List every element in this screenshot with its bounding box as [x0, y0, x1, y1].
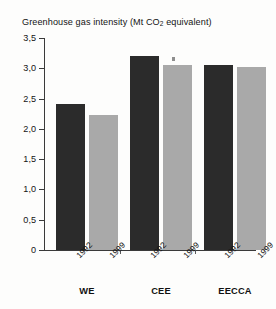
x-axis-group-label-eecca: EECCA — [218, 286, 251, 296]
y-axis-tick-label: 1,0 — [23, 184, 36, 194]
y-axis-tick-label: 0,5 — [23, 215, 36, 225]
x-axis-group-label-we: WE — [79, 286, 94, 296]
scan-artifact-speck — [172, 57, 175, 61]
y-axis-tick-label: 2,5 — [23, 94, 36, 104]
chart-title-main: Greenhouse gas intensity (Mt CO — [22, 17, 160, 27]
bar-we-1999 — [89, 115, 118, 250]
bar-cee-1992 — [130, 56, 159, 250]
bar-eecca-1992 — [204, 65, 233, 250]
chart-title: Greenhouse gas intensity (Mt CO2 equival… — [22, 17, 212, 27]
y-axis-tick-mark — [39, 250, 44, 251]
y-axis-tick-label: 0 — [31, 245, 36, 255]
y-axis-tick-mark — [39, 68, 44, 69]
chart-figure: Greenhouse gas intensity (Mt CO2 equival… — [0, 0, 276, 309]
y-axis-tick-mark — [39, 38, 44, 39]
y-axis-tick-mark — [39, 129, 44, 130]
chart-title-tail: equivalent) — [164, 17, 212, 27]
y-axis-tick-label: 2,0 — [23, 124, 36, 134]
y-axis-tick-mark — [39, 159, 44, 160]
x-axis-group-label-cee: CEE — [151, 286, 171, 296]
y-axis-tick-label: 3,0 — [23, 63, 36, 73]
y-axis-tick-mark — [39, 189, 44, 190]
bar-we-1992 — [56, 104, 85, 250]
y-axis-tick-label: 3,5 — [23, 33, 36, 43]
y-axis-tick-mark — [39, 99, 44, 100]
bar-cee-1999 — [163, 65, 192, 250]
plot-area: 3,53,02,52,01,51,00,50 — [44, 38, 256, 250]
bar-eecca-1999 — [237, 67, 266, 250]
y-axis-tick-mark — [39, 220, 44, 221]
y-axis-tick-label: 1,5 — [23, 154, 36, 164]
